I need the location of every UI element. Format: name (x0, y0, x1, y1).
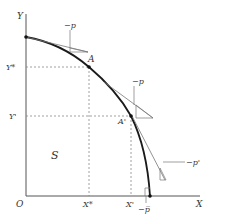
point-a-label: A (87, 54, 95, 64)
y-prime-label: Y' (9, 112, 16, 121)
price-triangle-lower (160, 168, 166, 180)
price-label-bottom: −p̅ (138, 205, 150, 214)
endpoint-y (24, 35, 28, 39)
y-star-label: Y* (6, 63, 15, 72)
y-axis-label: Y (17, 11, 24, 21)
region-s-label: S (51, 149, 59, 162)
x-axis-label: X (195, 199, 203, 209)
x-prime-label: X' (125, 200, 134, 209)
price-label-middle: −p (132, 77, 144, 86)
price-triangle-middle (136, 105, 153, 118)
ppf-diagram: Y X O A A' Y* Y' X* X' S −p −p −p' −p̅ (0, 0, 225, 222)
point-a (87, 65, 91, 69)
point-a-prime (129, 114, 133, 118)
price-label-top: −p (64, 21, 76, 30)
price-label-lower: −p' (186, 158, 200, 167)
origin-label: O (16, 199, 24, 209)
endpoint-x (148, 194, 152, 198)
price-triangle-top (70, 48, 88, 52)
point-a-prime-label: A' (117, 117, 126, 126)
x-star-label: X* (82, 200, 93, 209)
